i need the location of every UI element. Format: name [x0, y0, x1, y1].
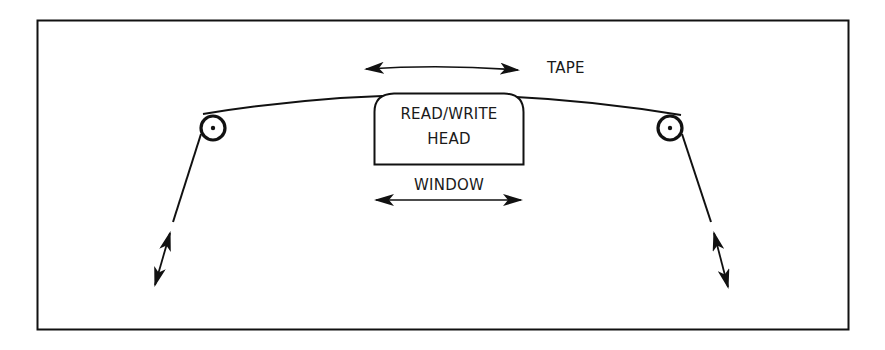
tape-head-diagram: [0, 0, 885, 350]
head-label-line1: READ/WRITE: [374, 107, 524, 122]
right-roller-icon: [658, 116, 682, 140]
right-tape-tail: [682, 134, 711, 222]
right-tension-arrow: [714, 233, 728, 287]
window-label: WINDOW: [374, 178, 524, 193]
tape-label: TAPE: [547, 61, 585, 76]
head-label-line2: HEAD: [374, 132, 524, 147]
left-tension-arrow: [155, 233, 170, 285]
left-roller-icon: [201, 116, 225, 140]
tape-motion-arrow: [366, 67, 518, 70]
left-tape-tail: [173, 134, 201, 222]
